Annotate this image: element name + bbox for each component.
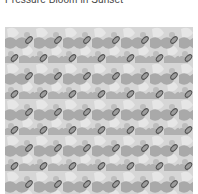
pattern-canvas [5, 27, 193, 194]
artwork-title: Pressure Bloom in Sunset [5, 0, 123, 5]
artwork-image [5, 27, 193, 194]
